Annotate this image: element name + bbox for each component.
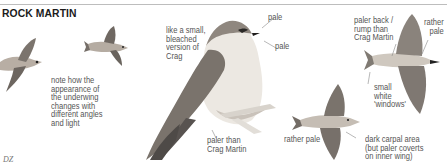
underwing-note: note how the appearance of the underwing… bbox=[51, 76, 103, 128]
dark-carpal-note: dark carpal area (but paler coverts on i… bbox=[365, 135, 423, 161]
paler-back-note: paler back / rump than Crag Martin bbox=[354, 16, 394, 42]
bird-flying-side-icon bbox=[84, 26, 128, 66]
rather-pale-bottom-note: rather pale bbox=[284, 135, 320, 144]
bleached-note: like a small, bleached version of Crag bbox=[166, 26, 206, 60]
pale-label-crown: pale bbox=[268, 13, 282, 22]
rather-pale-top-note: rather pale bbox=[424, 18, 444, 35]
bird-flying-underside-left-icon bbox=[0, 38, 42, 92]
paler-than-crag-note: paler than Crag Martin bbox=[207, 136, 247, 153]
artist-credit: DZ bbox=[3, 155, 13, 164]
pale-label-throat: pale bbox=[275, 42, 289, 51]
small-white-windows-note: small white 'windows' bbox=[374, 83, 406, 109]
bird-flying-underside-right-icon bbox=[292, 84, 360, 160]
